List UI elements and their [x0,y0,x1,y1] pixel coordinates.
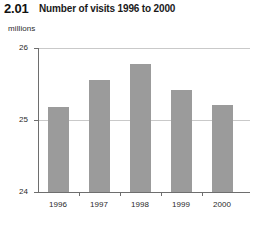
y-tick-mark-24 [34,192,38,193]
x-tick-mark-2 [120,192,121,196]
bar-1996[interactable] [48,107,69,192]
y-tick-label-25: 25 [8,116,28,124]
x-tick-mark-1 [79,192,80,196]
y-tick-mark-26 [34,48,38,49]
x-tick-label-1997: 1997 [79,200,119,209]
x-tick-label-1998: 1998 [120,200,160,209]
y-tick-label-26: 26 [8,44,28,52]
y-tick-label-24: 24 [8,188,28,196]
x-axis-line [38,192,250,193]
bar-2000[interactable] [212,105,233,192]
figure-chart-visits: 2.01 Number of visits 1996 to 2000 milli… [0,0,261,228]
bar-1999[interactable] [171,90,192,192]
y-axis-line [38,48,39,193]
y-tick-mark-25 [34,120,38,121]
x-tick-label-2000: 2000 [202,200,242,209]
x-tick-mark-4 [202,192,203,196]
bar-1997[interactable] [89,80,110,192]
plot-area: 26 25 24 1996 1997 1998 1999 2000 [0,0,261,228]
gridline-26 [38,48,250,49]
x-tick-mark-3 [161,192,162,196]
x-tick-label-1999: 1999 [161,200,201,209]
bar-1998[interactable] [130,64,151,192]
x-tick-label-1996: 1996 [38,200,78,209]
